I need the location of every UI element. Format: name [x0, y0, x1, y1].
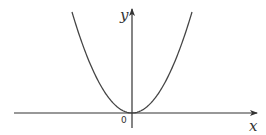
x-axis-label: x: [249, 117, 258, 135]
parabola-diagram: y x 0: [0, 0, 266, 135]
y-axis-label: y: [119, 6, 129, 24]
origin-label: 0: [121, 115, 127, 125]
